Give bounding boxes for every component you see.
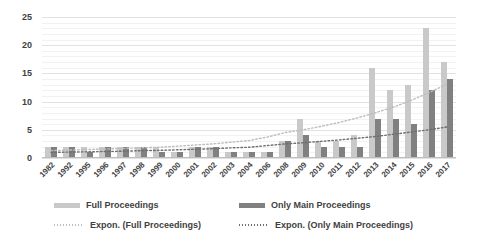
x-axis-tick-2001: 2001 (182, 161, 200, 179)
legend-label-expon-full-proceedings: Expon. (Full Proceedings) (90, 220, 201, 230)
x-axis-cell-2010: 2010 (312, 160, 330, 194)
legend-swatch-expon-only-main-proceedings (239, 224, 269, 226)
x-axis-cell-2014: 2014 (384, 160, 402, 194)
trendline-expon-full-proceedings- (51, 84, 447, 151)
x-axis-tick-1982: 1982 (38, 161, 56, 179)
trendline-expon-only-main-proceedings- (51, 127, 447, 152)
x-axis-cell-2009: 2009 (294, 160, 312, 194)
legend-item-expon-full-proceedings[interactable]: Expon. (Full Proceedings) (54, 216, 239, 234)
x-axis-tick-2006: 2006 (254, 161, 272, 179)
x-axis-cell-2002: 2002 (204, 160, 222, 194)
x-axis-tick-1995: 1995 (74, 161, 92, 179)
x-axis-line (42, 157, 456, 158)
x-axis-cell-2003: 2003 (222, 160, 240, 194)
legend-label-expon-only-main-proceedings: Expon. (Only Main Proceedings) (275, 220, 413, 230)
x-axis-cell-2004: 2004 (240, 160, 258, 194)
x-axis-cell-1999: 1999 (150, 160, 168, 194)
chart-legend: Full Proceedings Only Main Proceedings E… (0, 196, 478, 240)
y-axis-tick-25: 25 (22, 13, 32, 22)
chart-container: 0510152025 19821992199519961997199819992… (0, 0, 478, 244)
y-axis-tick-10: 10 (22, 97, 32, 106)
y-axis-tick-20: 20 (22, 41, 32, 50)
x-axis-tick-2016: 2016 (416, 161, 434, 179)
x-axis-tick-1997: 1997 (110, 161, 128, 179)
x-axis-cell-1982: 1982 (42, 160, 60, 194)
legend-row-trendlines: Expon. (Full Proceedings) Expon. (Only M… (0, 216, 478, 234)
x-axis-tick-2017: 2017 (434, 161, 452, 179)
plot-area (42, 17, 456, 158)
y-axis-tick-15: 15 (22, 69, 32, 78)
x-axis-tick-1999: 1999 (146, 161, 164, 179)
x-axis-cell-2016: 2016 (420, 160, 438, 194)
x-axis-cell-1992: 1992 (60, 160, 78, 194)
x-axis-cell-2012: 2012 (348, 160, 366, 194)
x-axis-tick-2009: 2009 (290, 161, 308, 179)
y-axis-tick-5: 5 (27, 125, 32, 134)
legend-row-bars: Full Proceedings Only Main Proceedings (0, 196, 478, 214)
x-axis-cell-1997: 1997 (114, 160, 132, 194)
trendlines (42, 17, 456, 158)
x-axis-cell-2013: 2013 (366, 160, 384, 194)
x-axis-cell-2011: 2011 (330, 160, 348, 194)
x-axis-cell-2017: 2017 (438, 160, 456, 194)
x-axis-tick-2011: 2011 (327, 161, 345, 179)
y-axis-tick-0: 0 (27, 154, 32, 163)
x-axis-cell-1995: 1995 (78, 160, 96, 194)
x-axis-tick-1992: 1992 (56, 161, 74, 179)
x-axis-labels: 1982199219951996199719981999200020012002… (42, 160, 456, 194)
x-axis-cell-1998: 1998 (132, 160, 150, 194)
y-axis: 0510152025 (0, 0, 40, 158)
x-axis-tick-1998: 1998 (128, 161, 146, 179)
x-axis-tick-2008: 2008 (272, 161, 290, 179)
x-axis-tick-2015: 2015 (398, 161, 416, 179)
x-axis-cell-2008: 2008 (276, 160, 294, 194)
legend-label-only-main-proceedings: Only Main Proceedings (271, 200, 371, 210)
x-axis-tick-2010: 2010 (308, 161, 326, 179)
x-axis-cell-2000: 2000 (168, 160, 186, 194)
legend-swatch-full-proceedings (54, 203, 80, 208)
x-axis-cell-2006: 2006 (258, 160, 276, 194)
x-axis-tick-2004: 2004 (236, 161, 254, 179)
x-axis-tick-2000: 2000 (164, 161, 182, 179)
x-axis-tick-2002: 2002 (200, 161, 218, 179)
legend-item-only-main-proceedings[interactable]: Only Main Proceedings (239, 196, 424, 214)
x-axis-cell-2001: 2001 (186, 160, 204, 194)
x-axis-tick-2014: 2014 (380, 161, 398, 179)
legend-label-full-proceedings: Full Proceedings (86, 200, 159, 210)
legend-item-expon-only-main-proceedings[interactable]: Expon. (Only Main Proceedings) (239, 216, 424, 234)
legend-swatch-expon-full-proceedings (54, 224, 84, 226)
x-axis-cell-1996: 1996 (96, 160, 114, 194)
x-axis-tick-1996: 1996 (92, 161, 110, 179)
legend-item-full-proceedings[interactable]: Full Proceedings (54, 196, 239, 214)
x-axis-tick-2003: 2003 (218, 161, 236, 179)
x-axis-tick-2013: 2013 (362, 161, 380, 179)
x-axis-tick-2012: 2012 (344, 161, 362, 179)
x-axis-cell-2015: 2015 (402, 160, 420, 194)
legend-swatch-only-main-proceedings (239, 203, 265, 208)
